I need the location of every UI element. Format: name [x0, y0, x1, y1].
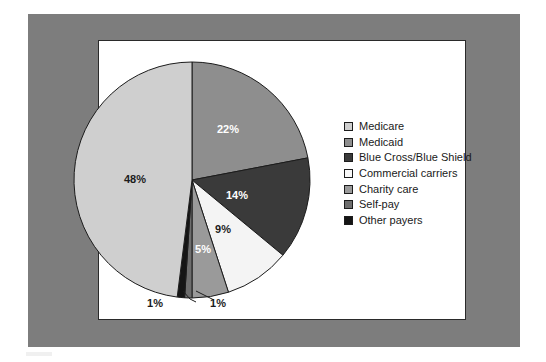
legend-item[interactable]: Medicaid	[344, 135, 494, 151]
legend-swatch-icon	[344, 138, 353, 147]
legend-item[interactable]: Commercial carriers	[344, 166, 494, 182]
pie-slice-group	[74, 62, 310, 298]
pie-slice-label: 22%	[217, 123, 239, 135]
legend-item-label: Self-pay	[359, 199, 399, 210]
pie-slice-label: 9%	[215, 223, 231, 235]
legend-item[interactable]: Self-pay	[344, 197, 494, 213]
legend-item-label: Other payers	[359, 215, 423, 226]
legend-swatch-icon	[344, 153, 353, 162]
legend-swatch-icon	[344, 169, 353, 178]
legend-swatch-icon	[344, 122, 353, 131]
pie-slice-label: 5%	[195, 243, 211, 255]
legend-item-label: Medicaid	[359, 137, 403, 148]
legend-item-label: Medicare	[359, 121, 404, 132]
legend-item[interactable]: Medicare	[344, 119, 494, 135]
legend-item-label: Blue Cross/Blue Shield	[359, 152, 472, 163]
legend-item-label: Commercial carriers	[359, 168, 457, 179]
scan-artifact	[26, 352, 52, 356]
legend-item[interactable]: Blue Cross/Blue Shield	[344, 150, 494, 166]
chart-legend: MedicareMedicaidBlue Cross/Blue ShieldCo…	[344, 119, 494, 228]
legend-item-label: Charity care	[359, 184, 418, 195]
legend-swatch-icon	[344, 200, 353, 209]
legend-item[interactable]: Other payers	[344, 213, 494, 229]
pie-slice-label: 48%	[124, 173, 146, 185]
pie-slice-label: 1%	[147, 297, 163, 309]
legend-item[interactable]: Charity care	[344, 181, 494, 197]
pie-slice-label: 1%	[210, 297, 226, 309]
legend-swatch-icon	[344, 185, 353, 194]
pie-slice-label: 14%	[226, 189, 248, 201]
legend-swatch-icon	[344, 216, 353, 225]
